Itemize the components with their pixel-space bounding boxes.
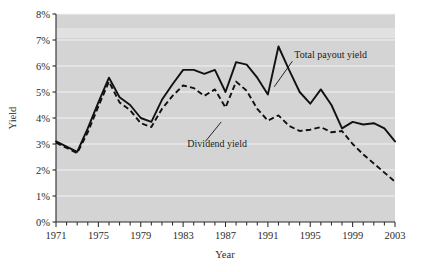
x-tick-label: 1995	[300, 230, 321, 241]
total-payout-yield-label: Total payout yield	[294, 49, 367, 60]
y-tick-label: 8%	[36, 9, 50, 20]
chart-figure: 0%1%2%3%4%5%6%7%8% 197119751979198319871…	[0, 0, 425, 272]
x-tick-label: 1975	[88, 230, 109, 241]
y-tick-label: 1%	[36, 191, 50, 202]
x-tick-label: 1999	[342, 230, 363, 241]
x-tick-label: 2003	[385, 230, 406, 241]
y-tick-label: 2%	[36, 165, 50, 176]
x-tick-label: 1971	[46, 230, 67, 241]
y-tick-label: 5%	[36, 87, 50, 98]
y-tick-label: 6%	[36, 61, 50, 72]
dividend-yield-label: Dividend yield	[187, 138, 247, 149]
y-axis-tick-labels: 0%1%2%3%4%5%6%7%8%	[36, 9, 50, 228]
x-tick-label: 1983	[173, 230, 194, 241]
x-axis-title: Year	[215, 249, 235, 260]
x-tick-label: 1987	[215, 230, 236, 241]
yield-line-chart: 0%1%2%3%4%5%6%7%8% 197119751979198319871…	[0, 0, 425, 272]
scan-artifact-band	[0, 28, 425, 38]
y-axis-title: Yield	[7, 106, 18, 129]
y-tick-label: 7%	[36, 35, 50, 46]
y-tick-label: 4%	[36, 113, 50, 124]
x-tick-label: 1979	[130, 230, 151, 241]
x-axis-tick-labels: 197119751979198319871991199519992003	[46, 230, 406, 241]
y-tick-label: 3%	[36, 139, 50, 150]
y-tick-label: 0%	[36, 217, 50, 228]
x-tick-label: 1991	[257, 230, 278, 241]
